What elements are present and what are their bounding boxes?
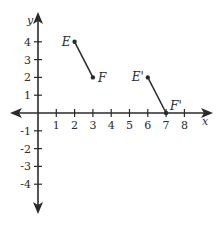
y-tick-label: -1 — [20, 125, 31, 138]
point-label-e-prime: E' — [131, 70, 144, 84]
point-label-f: F — [97, 71, 107, 85]
y-tick-label: -2 — [20, 143, 31, 156]
x-tick-label: 3 — [89, 119, 96, 132]
x-tick-label: 7 — [163, 119, 170, 132]
y-tick-label: -3 — [20, 160, 31, 173]
y-axis-label: y — [26, 14, 34, 27]
coordinate-plane: 123456784321-1-2-3-4 EFE'F' x y — [0, 0, 222, 226]
segment-e-primef': E'F' — [131, 70, 182, 115]
y-tick-label: 3 — [24, 54, 31, 67]
x-tick-label: 5 — [126, 119, 133, 132]
x-tick-label: 6 — [144, 119, 151, 132]
segments: EFE'F' — [61, 35, 182, 115]
x-tick-label: 4 — [108, 119, 115, 132]
segment-line — [148, 77, 166, 113]
point-dot — [146, 75, 150, 79]
point-dot — [72, 40, 76, 44]
x-tick-label: 8 — [181, 119, 188, 132]
point-dot — [91, 75, 95, 79]
y-tick-label: 4 — [24, 36, 31, 49]
x-tick-label: 2 — [71, 119, 78, 132]
y-tick-label: 2 — [24, 71, 31, 84]
point-label-e: E — [61, 35, 71, 49]
segment-line — [75, 42, 93, 78]
point-label-f-prime: F' — [169, 99, 182, 113]
y-tick-label: 1 — [24, 89, 31, 102]
x-tick-label: 1 — [53, 119, 60, 132]
x-axis-label: x — [202, 115, 209, 128]
point-dot — [164, 111, 168, 115]
y-tick-label: -4 — [20, 178, 31, 191]
segment-ef: EF — [61, 35, 107, 86]
